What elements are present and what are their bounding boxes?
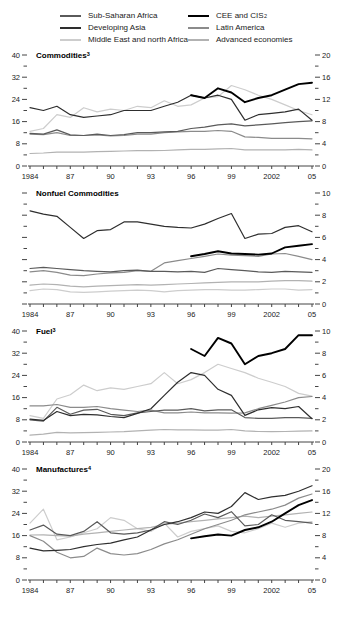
- x-axis-label: 90: [106, 586, 114, 595]
- x-axis-label: 87: [66, 310, 74, 319]
- x-axis-label: 1984: [22, 172, 39, 181]
- x-axis-label: 87: [66, 172, 74, 181]
- left-axis-label: 24: [12, 95, 20, 104]
- x-axis-label: 05: [308, 586, 316, 595]
- x-axis-label: 2002: [263, 586, 280, 595]
- right-axis-label: 4: [322, 553, 326, 562]
- left-axis-label: 24: [12, 509, 20, 518]
- x-axis-label: 2002: [263, 172, 280, 181]
- right-axis-label: 0: [322, 576, 326, 585]
- left-axis-label: 40: [12, 327, 20, 336]
- series-line-middle-east-and-north-africa: [30, 289, 312, 292]
- chart-svg-commodities: 008416824123216402019848790939699200205C…: [0, 48, 340, 186]
- footnote-marker: 2: [264, 13, 267, 19]
- x-axis-label: 2002: [263, 448, 280, 457]
- x-axis-label: 87: [66, 448, 74, 457]
- left-axis-label: 8: [16, 553, 20, 562]
- chart-svg-fuel: 0082164246328401019848790939699200205Fue…: [0, 324, 340, 462]
- series-line-advanced-economies: [30, 149, 312, 154]
- x-axis-label: 96: [187, 448, 195, 457]
- legend: Sub-Saharan Africa Developing Asia Middl…: [0, 0, 340, 48]
- legend-column-left: Sub-Saharan Africa Developing Asia Middl…: [60, 10, 188, 46]
- legend-label: Sub-Saharan Africa: [88, 10, 157, 22]
- legend-label: Middle East and north Africa: [88, 34, 188, 46]
- right-axis-label: 12: [322, 95, 330, 104]
- panel-title: Commodities3: [36, 51, 90, 61]
- x-axis-label: 99: [227, 310, 235, 319]
- panel-title: Nonfuel Commodities: [36, 189, 119, 198]
- left-axis-label: 24: [12, 371, 20, 380]
- right-axis-label: 16: [322, 73, 330, 82]
- x-axis-label: 90: [106, 172, 114, 181]
- right-axis-label: 4: [322, 393, 326, 402]
- right-axis-label: 0: [322, 300, 326, 309]
- series-line-developing-asia: [30, 211, 312, 239]
- panel-title: Manufactures4: [36, 465, 92, 475]
- panel-manufactures: 008416824123216402019848790939699200205M…: [0, 462, 340, 600]
- right-axis-label: 20: [322, 465, 330, 474]
- left-axis-label: 40: [12, 51, 20, 60]
- legend-item-latin-america: Latin America: [188, 22, 338, 34]
- right-axis-label: 2: [322, 277, 326, 286]
- x-axis-label: 93: [147, 586, 155, 595]
- legend-column-right: CEE and CIS2 Latin America Advanced econ…: [188, 10, 338, 46]
- series-line-developing-asia: [30, 486, 312, 551]
- line-sample-icon: [188, 15, 209, 17]
- x-axis-label: 90: [106, 310, 114, 319]
- left-axis-label: 32: [12, 73, 20, 82]
- left-axis-label: 16: [12, 531, 20, 540]
- figure-export-shares: Sub-Saharan Africa Developing Asia Middl…: [0, 0, 340, 619]
- x-axis-label: 99: [227, 448, 235, 457]
- left-axis-label: 0: [16, 438, 20, 447]
- left-axis-label: 32: [12, 349, 20, 358]
- right-axis-label: 10: [322, 327, 330, 336]
- line-sample-icon: [188, 27, 209, 28]
- x-axis-label: 87: [66, 586, 74, 595]
- line-sample-icon: [60, 39, 81, 40]
- x-axis-label: 96: [187, 586, 195, 595]
- left-axis-label: 0: [16, 162, 20, 171]
- left-axis-label: 0: [16, 576, 20, 585]
- series-line-cee-and-cis: [191, 244, 312, 256]
- panel-fuel: 0082164246328401019848790939699200205Fue…: [0, 324, 340, 462]
- x-axis-label: 90: [106, 448, 114, 457]
- legend-label: Latin America: [216, 22, 264, 34]
- legend-item-sub-saharan-africa: Sub-Saharan Africa: [60, 10, 188, 22]
- x-axis-label: 96: [187, 172, 195, 181]
- legend-item-middle-east-north-africa: Middle East and north Africa: [60, 34, 188, 46]
- right-axis-label: 8: [322, 117, 326, 126]
- line-sample-icon: [60, 15, 81, 16]
- panel-commodities: 008416824123216402019848790939699200205C…: [0, 48, 340, 186]
- right-axis-label: 6: [322, 371, 326, 380]
- left-axis-label: 16: [12, 393, 20, 402]
- series-line-sub-saharan-africa: [30, 267, 312, 272]
- chart-svg-nonfuel-commodities: 024681019848790939699200205Nonfuel Commo…: [0, 186, 340, 324]
- legend-label: Developing Asia: [88, 22, 145, 34]
- series-line-sub-saharan-africa: [30, 407, 312, 421]
- x-axis-label: 99: [227, 586, 235, 595]
- chart-panels: 008416824123216402019848790939699200205C…: [0, 48, 340, 600]
- panel-title: Fuel3: [36, 327, 56, 337]
- legend-item-developing-asia: Developing Asia: [60, 22, 188, 34]
- legend-label: Advanced economies: [216, 34, 293, 46]
- x-axis-label: 1984: [22, 448, 39, 457]
- right-axis-label: 0: [322, 438, 326, 447]
- x-axis-label: 1984: [22, 310, 39, 319]
- left-axis-label: 40: [12, 465, 20, 474]
- right-axis-label: 0: [322, 162, 326, 171]
- legend-item-advanced-economies: Advanced economies: [188, 34, 338, 46]
- legend-label: CEE and CIS: [216, 10, 264, 22]
- chart-svg-manufactures: 008416824123216402019848790939699200205M…: [0, 462, 340, 600]
- right-axis-label: 6: [322, 233, 326, 242]
- x-axis-label: 96: [187, 310, 195, 319]
- line-sample-icon: [60, 27, 81, 28]
- x-axis-label: 99: [227, 172, 235, 181]
- right-axis-label: 2: [322, 415, 326, 424]
- right-axis-label: 12: [322, 509, 330, 518]
- x-axis-label: 93: [147, 448, 155, 457]
- right-axis-label: 10: [322, 189, 330, 198]
- series-line-cee-and-cis: [191, 335, 312, 364]
- line-sample-icon: [188, 39, 209, 40]
- x-axis-label: 05: [308, 172, 316, 181]
- x-axis-label: 05: [308, 448, 316, 457]
